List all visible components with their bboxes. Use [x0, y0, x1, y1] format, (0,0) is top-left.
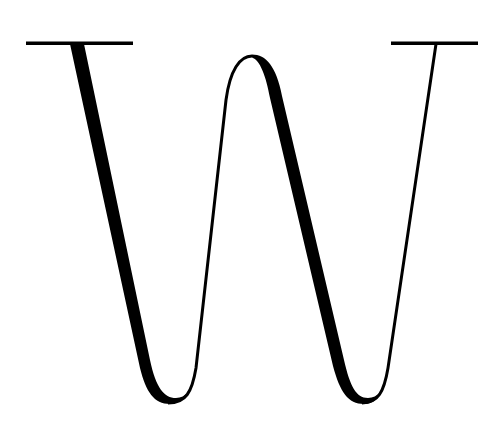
w-monogram-icon	[0, 0, 499, 430]
right-thin-stroke	[362, 44, 436, 403]
w-logo: W	[0, 0, 499, 430]
left-thick-stroke	[70, 44, 196, 404]
middle-thick-stroke	[252, 55, 388, 405]
left-u-thin-stroke	[168, 56, 252, 403]
